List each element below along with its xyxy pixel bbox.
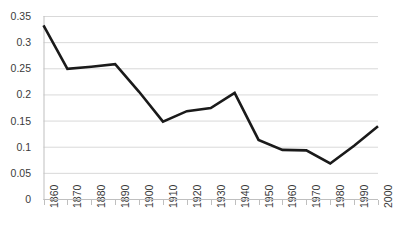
x-tick-marks	[45, 200, 379, 205]
